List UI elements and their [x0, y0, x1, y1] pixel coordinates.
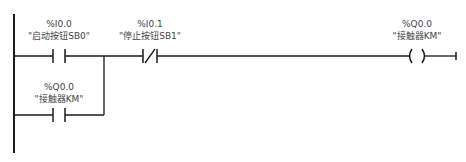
stop-contact-address: %I0.1 [137, 19, 163, 30]
seal-contact-no[interactable] [53, 108, 65, 122]
seal-contact-address: %Q0.0 [44, 82, 74, 93]
start-contact-no[interactable] [53, 49, 65, 63]
stop-contact-tag: "停止按钮SB1" [119, 31, 181, 42]
output-coil[interactable] [410, 49, 425, 63]
seal-contact-tag: "接触器KM" [35, 94, 84, 105]
start-contact-tag: "启动按钮SB0" [28, 31, 90, 42]
coil-tag: "接触器KM" [393, 31, 442, 42]
start-contact-address: %I0.0 [46, 19, 72, 30]
stop-contact-nc[interactable] [143, 49, 157, 63]
coil-address: %Q0.0 [402, 19, 432, 30]
